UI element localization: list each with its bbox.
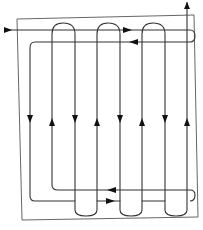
- arrow-up-icon: [94, 118, 100, 126]
- inlet-arrow-icon: [4, 27, 12, 33]
- arrow-left-icon: [107, 187, 116, 193]
- arrow-left-icon: [129, 39, 138, 45]
- serpentine-flow-diagram: [0, 0, 203, 230]
- arrow-down-icon: [117, 115, 123, 123]
- arrow-up-icon: [139, 118, 145, 126]
- arrow-right-icon: [123, 27, 132, 33]
- arrow-up-icon: [49, 118, 55, 126]
- return-path: [52, 42, 195, 201]
- loop-path-3: [97, 23, 120, 201]
- arrow-down-icon: [72, 115, 78, 123]
- boundary-frame: [17, 15, 198, 220]
- outlet-arrow-icon: [184, 2, 190, 9]
- loop-path-4: [142, 23, 165, 201]
- loop-path-2: [52, 23, 75, 201]
- arrow-down-icon: [162, 115, 168, 123]
- arrow-down-icon: [27, 115, 33, 123]
- loop-path-1: [4, 2, 195, 216]
- arrow-right-icon: [106, 198, 115, 204]
- arrow-up-icon: [184, 118, 190, 126]
